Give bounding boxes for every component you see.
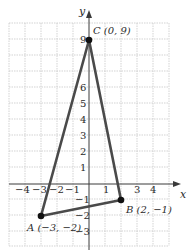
point-b <box>118 197 125 204</box>
point-b-label: B (2, −1) <box>125 204 172 215</box>
y-tick: 3 <box>80 130 86 141</box>
x-tick: −3 <box>32 184 47 195</box>
x-tick: −2 <box>49 184 64 195</box>
y-axis-arrow-icon <box>86 10 92 18</box>
point-a <box>38 213 45 220</box>
coordinate-plane: x y −4 −3 −2 −1 1 3 4 9 6 5 4 3 2 1 −1 −… <box>0 0 193 250</box>
x-tick: −4 <box>15 184 30 195</box>
x-tick: 3 <box>134 184 140 195</box>
x-axis-arrow-icon <box>173 181 181 187</box>
x-tick: 4 <box>150 184 156 195</box>
y-axis-label: y <box>78 5 86 18</box>
y-tick: 6 <box>80 82 86 93</box>
x-axis-label: x <box>180 188 187 201</box>
y-tick: 2 <box>80 146 86 157</box>
y-tick: −1 <box>75 194 90 205</box>
y-tick: 5 <box>80 98 86 109</box>
y-tick: 1 <box>80 162 86 173</box>
x-tick: 1 <box>103 184 109 195</box>
point-c <box>86 37 93 44</box>
y-tick: −2 <box>75 210 90 221</box>
y-tick: 9 <box>80 34 86 45</box>
y-tick: 4 <box>80 114 86 125</box>
point-a-label: A (−3, −2) <box>26 222 81 233</box>
point-c-label: C (0, 9) <box>93 25 131 36</box>
